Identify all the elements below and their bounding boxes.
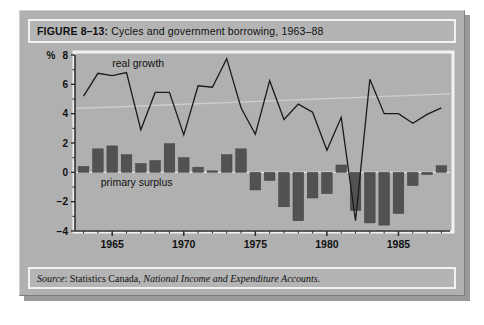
bar	[407, 172, 418, 185]
y-tick-label: 0	[62, 167, 68, 178]
bar	[379, 172, 390, 225]
bar	[178, 158, 189, 173]
x-tick-label: 1980	[315, 238, 339, 250]
bar	[221, 155, 232, 173]
figure-panel: FIGURE 8–13: Cycles and government borro…	[19, 10, 465, 296]
chart-annotation-real-growth: real growth	[112, 57, 164, 69]
bar	[365, 172, 376, 223]
bar	[307, 172, 318, 198]
bar	[436, 166, 447, 173]
bar	[393, 172, 404, 213]
chart-annotation-primary-surplus: primary surplus	[101, 176, 173, 188]
y-axis-unit-label: %	[47, 50, 56, 61]
bar	[164, 144, 175, 173]
figure-root: FIGURE 8–13: Cycles and government borro…	[0, 0, 484, 325]
figure-title-text: Cycles and government borrowing, 1963–88	[111, 25, 323, 37]
x-tick-label: 1970	[172, 238, 196, 250]
bar	[322, 172, 333, 193]
cycles-and-government-borrowing-chart: −4−202468%19651970197519801985real growt…	[28, 49, 456, 267]
bar	[422, 172, 433, 174]
page-title: FIGURE 8–13: Cycles and government borro…	[37, 25, 323, 37]
y-tick-label: 6	[62, 79, 68, 90]
y-tick-label: 4	[62, 108, 68, 119]
bar	[279, 172, 290, 206]
figure-title-band: FIGURE 8–13: Cycles and government borro…	[28, 19, 456, 43]
bar	[250, 172, 261, 190]
bar	[136, 164, 147, 173]
bar	[121, 155, 132, 173]
bar	[236, 149, 247, 172]
bar	[264, 172, 275, 180]
bar	[193, 167, 204, 172]
source-publication: National Income and Expenditure Accounts…	[143, 273, 320, 284]
bar	[78, 166, 89, 172]
y-tick-label: −4	[57, 226, 69, 237]
y-tick-label: 8	[62, 50, 68, 61]
x-tick-label: 1965	[101, 238, 125, 250]
bar	[336, 165, 347, 172]
x-tick-label: 1985	[387, 238, 411, 250]
source-prefix: Source	[37, 273, 64, 284]
figure-number-label: FIGURE 8–13:	[37, 25, 108, 37]
chart-plot-area: −4−202468%19651970197519801985real growt…	[28, 49, 456, 267]
y-tick-label: 2	[62, 138, 68, 149]
source-note: Source: Statistics Canada, National Inco…	[37, 273, 320, 284]
bar	[107, 146, 118, 172]
source-body: : Statistics Canada,	[64, 273, 143, 284]
bar	[293, 172, 304, 220]
bar	[150, 161, 161, 173]
x-tick-label: 1975	[244, 238, 268, 250]
bar	[93, 149, 104, 172]
figure-source-band: Source: Statistics Canada, National Inco…	[28, 267, 456, 289]
bar	[207, 171, 218, 172]
y-tick-label: −2	[57, 196, 69, 207]
